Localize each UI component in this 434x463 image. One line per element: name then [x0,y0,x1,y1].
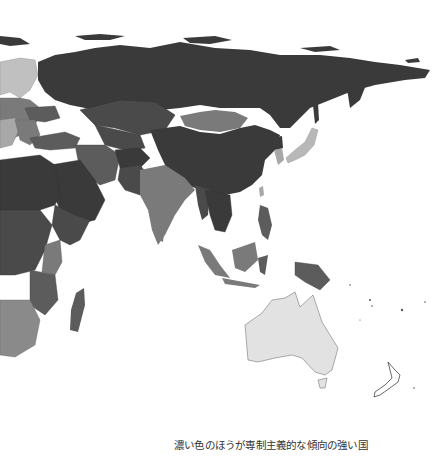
region-borneo [232,242,258,272]
region-ukraine [25,106,60,122]
region-taiwan [259,186,264,197]
region-papua [295,262,330,290]
region-scandinavia [0,58,38,98]
pacific-islands [349,284,426,389]
region-sulawesi [258,255,268,275]
region-south-korea [274,148,284,165]
region-australia [245,292,338,375]
region-tasmania [318,378,327,388]
region-kamchatka [345,75,370,108]
region-indochina [205,190,232,232]
region-southern-africa [0,300,40,357]
world-map [0,0,434,430]
region-malaysia-indonesia [198,245,230,278]
region-java [222,278,260,288]
region-east-africa [42,240,62,275]
region-north-africa [0,155,60,210]
region-philippines [258,205,272,240]
region-sakhalin [313,103,319,124]
map-caption: 濃い色のほうが専制主義的な傾向の強い国 [174,437,368,452]
region-madagascar [70,288,85,332]
region-new-zealand [374,362,400,397]
region-japan [286,128,318,163]
